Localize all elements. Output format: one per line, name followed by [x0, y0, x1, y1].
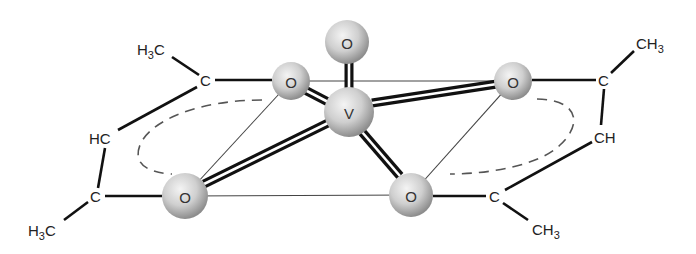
atom-o-lower-right: O — [389, 173, 433, 217]
svg-text:O: O — [179, 189, 191, 206]
right-methyl-bottom-label: CH3 — [532, 221, 560, 241]
atom-o-lower-left: O — [162, 173, 208, 219]
left-ch-label: HC — [89, 130, 111, 147]
left-carbon-bottom-label: C — [90, 188, 101, 205]
left-methyl-bottom-label: H3C — [28, 222, 56, 242]
right-ch-label: CH — [594, 129, 616, 146]
left-methyl-top-label: H3C — [137, 41, 165, 61]
svg-text:V: V — [344, 105, 354, 122]
right-carbon-top-label: C — [598, 72, 609, 89]
atom-o-upper-right: O — [494, 62, 532, 100]
svg-text:O: O — [507, 74, 519, 91]
svg-text:O: O — [405, 188, 417, 205]
svg-text:O: O — [285, 74, 297, 91]
svg-text:O: O — [341, 35, 353, 52]
vanadyl-acetylacetonate-diagram: O O O V O O H3C C HC C H3C CH3 C CH C CH… — [0, 0, 696, 254]
right-methyl-top-label: CH3 — [636, 35, 664, 55]
atom-o-top: O — [325, 20, 369, 64]
left-carbon-top-label: C — [200, 72, 211, 89]
atom-o-upper-left: O — [272, 62, 310, 100]
atom-vanadium: V — [324, 87, 374, 137]
right-carbon-bottom-label: C — [489, 188, 500, 205]
